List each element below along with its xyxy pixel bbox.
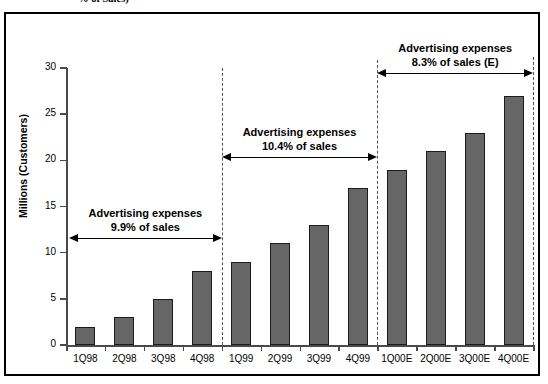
- x-tick-label: 2Q00E: [416, 354, 455, 364]
- annotation-line-2: 10.4% of sales: [222, 140, 378, 154]
- y-tick-label: 25: [30, 108, 56, 118]
- annotation-line-1: Advertising expenses: [377, 42, 533, 56]
- x-tick-mark: [533, 345, 535, 351]
- x-tick-label: 4Q98: [183, 354, 222, 364]
- y-tick-label: 5: [30, 293, 56, 303]
- arrow-head-right-icon: [213, 234, 222, 242]
- x-tick-label: 4Q99: [338, 354, 377, 364]
- x-tick-label: 1Q98: [66, 354, 105, 364]
- arrow-head-left-icon: [69, 234, 78, 242]
- bar-chart-plot: Millions (Customers) 051015202530 1Q982Q…: [0, 0, 548, 384]
- arrow-head-left-icon: [377, 69, 386, 77]
- x-tick-mark: [455, 345, 457, 351]
- arrow-head-left-icon: [222, 153, 231, 161]
- x-tick-mark: [222, 345, 224, 351]
- bar: [504, 96, 524, 345]
- y-tick-label: 15: [30, 201, 56, 211]
- annotation-span-line: [230, 157, 370, 158]
- x-tick-mark: [416, 345, 418, 351]
- x-tick-mark: [338, 345, 340, 351]
- bar: [192, 271, 212, 345]
- annotation-span-line: [77, 238, 214, 239]
- annotation-span-line: [385, 73, 525, 74]
- bar: [426, 151, 446, 345]
- bar: [153, 299, 173, 345]
- x-tick-mark: [261, 345, 263, 351]
- arrow-head-right-icon: [368, 153, 377, 161]
- bar: [270, 243, 290, 345]
- y-axis-title: Millions (Customers): [17, 96, 29, 236]
- y-tick-mark: [60, 67, 67, 69]
- x-tick-label: 2Q98: [105, 354, 144, 364]
- x-tick-mark: [300, 345, 302, 351]
- arrow-head-right-icon: [524, 69, 533, 77]
- bar: [465, 133, 485, 345]
- y-tick-mark: [60, 160, 67, 162]
- y-tick-label: 30: [30, 62, 56, 72]
- x-tick-mark: [144, 345, 146, 351]
- annotation-period-1999: Advertising expenses10.4% of sales: [222, 126, 378, 153]
- bar: [231, 262, 251, 345]
- bar: [309, 225, 329, 345]
- annotation-line-1: Advertising expenses: [69, 207, 222, 221]
- y-tick-label: 0: [30, 339, 56, 349]
- bar: [348, 188, 368, 345]
- x-tick-label: 2Q99: [261, 354, 300, 364]
- annotation-line-2: 8.3% of sales (E): [377, 56, 533, 70]
- x-tick-label: 1Q99: [222, 354, 261, 364]
- x-tick-label: 3Q00E: [455, 354, 494, 364]
- period-divider: [222, 68, 223, 345]
- x-tick-mark: [66, 345, 68, 351]
- y-tick-mark: [60, 113, 67, 115]
- y-tick-label: 20: [30, 154, 56, 164]
- x-tick-label: 1Q00E: [377, 354, 416, 364]
- x-tick-mark: [105, 345, 107, 351]
- period-divider: [377, 60, 378, 345]
- y-tick-mark: [60, 206, 67, 208]
- annotation-line-1: Advertising expenses: [222, 126, 378, 140]
- x-tick-label: 4Q00E: [494, 354, 533, 364]
- annotation-period-1998: Advertising expenses9.9% of sales: [69, 207, 222, 234]
- x-tick-label: 3Q98: [144, 354, 183, 364]
- y-tick-label: 10: [30, 247, 56, 257]
- y-tick-mark: [60, 252, 67, 254]
- x-tick-mark: [183, 345, 185, 351]
- bar: [387, 170, 407, 345]
- x-tick-mark: [377, 345, 379, 351]
- x-tick-label: 3Q99: [300, 354, 339, 364]
- bar: [114, 317, 134, 345]
- annotation-period-2000E: Advertising expenses8.3% of sales (E): [377, 42, 533, 69]
- period-divider: [533, 57, 534, 345]
- annotation-line-2: 9.9% of sales: [69, 221, 222, 235]
- x-tick-mark: [494, 345, 496, 351]
- bar: [75, 327, 95, 345]
- y-tick-mark: [60, 298, 67, 300]
